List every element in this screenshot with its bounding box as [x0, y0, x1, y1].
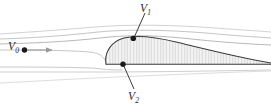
upper-velocity-label: V1 [140, 3, 151, 15]
upper-velocity-subscript: 1 [147, 8, 151, 17]
lower-velocity-symbol: V [128, 90, 135, 102]
freestream-velocity-symbol: V [8, 40, 15, 52]
v2-leader-line [124, 66, 134, 89]
freestream-velocity-subscript: 0 [15, 46, 19, 55]
lower-velocity-subscript: 2 [135, 96, 139, 105]
lower-stagnation-point-marker [120, 61, 125, 66]
streamline-lower-2 [0, 70, 271, 72]
upper-velocity-symbol: V [140, 2, 147, 14]
airfoil-streamline-figure: V0 V1 V2 [0, 0, 271, 108]
streamline-lower-3 [0, 71, 271, 83]
streamline-lower-1 [0, 67, 122, 70]
lower-velocity-label: V2 [128, 91, 139, 103]
freestream-velocity-arrow [22, 47, 52, 52]
streamline-top-1 [0, 25, 271, 34]
upper-stagnation-point-marker [131, 36, 136, 41]
freestream-velocity-label: V0 [8, 41, 19, 53]
freestream-point-marker [22, 47, 27, 52]
